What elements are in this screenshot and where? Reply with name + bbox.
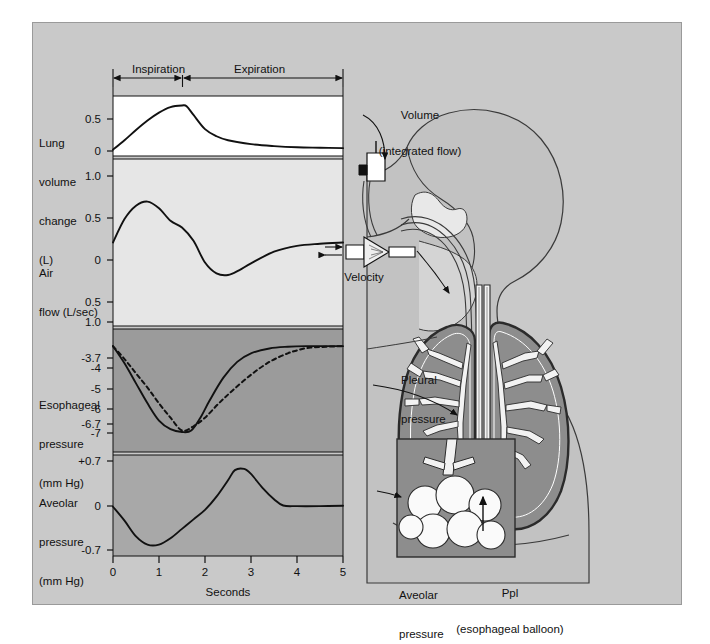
ytick-lv-1: 0: [61, 145, 101, 157]
ppl-l1: (esophageal balloon): [425, 623, 595, 635]
ytick-ep-1: -4: [53, 362, 101, 374]
ppl-label: Ppl (esophageal balloon): [425, 563, 595, 644]
xtick-5: 5: [333, 566, 353, 578]
volume-label: Volume (integrated flow): [355, 85, 485, 181]
ppl-l0: Ppl: [425, 587, 595, 599]
ytick-ep-5: -7: [53, 427, 101, 439]
vol-l1: (integrated flow): [355, 145, 485, 157]
pl-l1: pressure: [401, 413, 446, 426]
ytick-af-2: 0: [61, 254, 101, 266]
ap-l2: (mm Hg): [39, 575, 84, 588]
vol-l0: Volume: [355, 109, 485, 121]
ytick-af-4: 1.0: [61, 316, 101, 328]
af-l0: Air: [39, 267, 98, 280]
ytick-lv-0: 0.5: [61, 113, 101, 125]
xtick-0: 0: [103, 566, 123, 578]
ytick-ap-1: 0: [53, 500, 101, 512]
xtick-4: 4: [287, 566, 307, 578]
xtick-2: 2: [195, 566, 215, 578]
ep-l1: pressure: [39, 438, 100, 451]
ytick-ep-3: -6: [53, 403, 101, 415]
ytick-af-3: 0.5: [61, 296, 101, 308]
x-axis-label: Seconds: [183, 586, 273, 598]
pleural-pressure-label: Pleural pressure: [401, 348, 446, 452]
velocity-label: Velocity: [319, 271, 409, 283]
ytick-af-1: 0.5: [61, 212, 101, 224]
xtick-3: 3: [241, 566, 261, 578]
phase-label-expiration: Expiration: [231, 63, 288, 75]
pl-l0: Pleural: [401, 374, 446, 387]
ytick-ep-2: -5: [53, 383, 101, 395]
figure-panel: Inspiration Expiration Lung volume chang…: [32, 22, 682, 605]
ytick-af-0: 1.0: [61, 170, 101, 182]
ytick-ap-0: +0.7: [53, 455, 101, 467]
ytick-ap-2: -0.7: [53, 544, 101, 556]
phase-label-inspiration: Inspiration: [129, 63, 188, 75]
alveolar-axis-label: Aveolar pressure (mm Hg): [39, 471, 84, 614]
xtick-1: 1: [149, 566, 169, 578]
